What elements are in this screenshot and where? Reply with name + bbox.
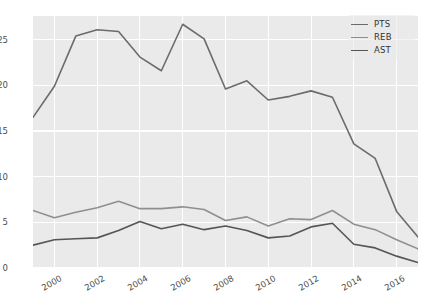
x-tick-label: 2010 [221, 274, 277, 305]
x-tick-label: 2016 [350, 274, 406, 305]
y-tick-label: 25 [0, 35, 8, 44]
y-tick-label: 15 [0, 127, 8, 136]
legend-label-pts: PTS [374, 20, 390, 29]
legend-item-ast: AST [351, 44, 412, 57]
legend-item-pts: PTS [351, 18, 412, 31]
x-tick-label: 2004 [93, 274, 149, 305]
chart-legend: PTS REB AST [349, 15, 415, 60]
x-tick-label: 2008 [179, 274, 235, 305]
series-line-ast [33, 221, 418, 262]
x-tick-label: 2000 [7, 274, 63, 305]
legend-swatch-ast [351, 50, 368, 51]
legend-swatch-pts [351, 24, 368, 25]
y-tick-label: 0 [0, 264, 8, 273]
y-tick-label: 5 [0, 218, 8, 227]
legend-item-reb: REB [351, 31, 412, 44]
chart-figure: 0510152025 20002002200420062008201020122… [0, 0, 437, 305]
x-tick-label: 2006 [136, 274, 192, 305]
legend-swatch-reb [351, 37, 368, 38]
x-tick-label: 2014 [307, 274, 363, 305]
y-tick-label: 10 [0, 172, 8, 181]
x-tick-label: 2002 [50, 274, 106, 305]
legend-label-reb: REB [374, 33, 392, 42]
series-line-reb [33, 201, 418, 248]
y-tick-label: 20 [0, 81, 8, 90]
legend-label-ast: AST [374, 46, 391, 55]
x-tick-label: 2012 [264, 274, 320, 305]
